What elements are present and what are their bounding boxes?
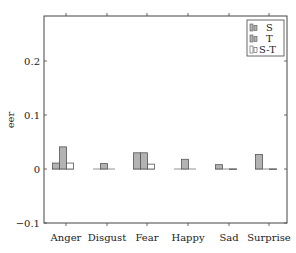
bar-surprise-s-t xyxy=(270,169,277,170)
x-tick-label-sad: Sad xyxy=(219,232,239,243)
x-tick-label-happy: Happy xyxy=(171,232,204,243)
legend-swatch-s xyxy=(250,24,253,31)
y-tick-label: 0.2 xyxy=(24,56,40,67)
bar-sad-s-t xyxy=(230,169,237,170)
legend-label-s-t: S-T xyxy=(259,44,276,55)
bar-fear-s xyxy=(134,153,141,169)
y-tick-label: 0.1 xyxy=(24,110,40,121)
bar-anger-s-t xyxy=(67,163,74,169)
x-tick-label-disgust: Disgust xyxy=(88,232,126,243)
legend-swatch-s-t xyxy=(250,46,253,53)
bars-layer xyxy=(52,147,277,170)
bar-happy-t xyxy=(182,159,189,169)
legend-label-s: S xyxy=(266,22,273,33)
legend-swatch-s-t-b xyxy=(254,48,257,53)
legend-label-t: T xyxy=(266,33,273,44)
legend: STS-T xyxy=(247,20,284,56)
y-tick-label: 0 xyxy=(34,164,40,175)
bar-fear-s-t xyxy=(148,164,155,169)
x-tick-label-surprise: Surprise xyxy=(247,232,291,243)
bar-anger-t xyxy=(60,147,67,169)
bar-chart: −0.100.10.2AngerDisgustFearHappySadSurpr… xyxy=(0,0,296,253)
y-tick-label: −0.1 xyxy=(16,218,40,229)
x-tick-label-fear: Fear xyxy=(135,232,158,243)
bar-surprise-s xyxy=(256,154,263,169)
bar-fear-t xyxy=(141,153,148,169)
bar-anger-s xyxy=(53,163,60,169)
y-axis-label: eer xyxy=(5,111,16,128)
x-tick-label-anger: Anger xyxy=(50,232,82,243)
bar-sad-s xyxy=(216,165,223,169)
legend-swatch-t xyxy=(250,35,253,42)
bar-disgust-t xyxy=(101,164,108,169)
legend-swatch-s-b xyxy=(254,26,257,31)
legend-swatch-t-b xyxy=(254,37,257,42)
